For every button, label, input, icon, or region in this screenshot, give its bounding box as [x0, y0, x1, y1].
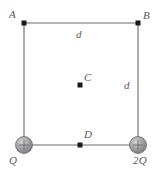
- charge-sphere-q: [16, 137, 33, 154]
- vertex-label-a: A: [9, 9, 16, 20]
- point-label-d: D: [84, 129, 92, 140]
- charge-label-q: Q: [9, 155, 17, 166]
- vertex-label-b: B: [143, 10, 150, 21]
- charge-sphere-2q: [130, 137, 147, 154]
- side-length-label-right: d: [124, 80, 130, 91]
- diagram-canvas: [0, 0, 161, 176]
- side-length-label-top: d: [76, 29, 82, 40]
- vertex-dot-b: [136, 21, 141, 26]
- charge-label-2q: 2Q: [133, 155, 147, 166]
- point-dot-c: [78, 83, 83, 88]
- point-label-c: C: [84, 72, 92, 83]
- physics-diagram-figure: A B Q 2Q C D d d: [0, 0, 161, 176]
- point-dot-d: [78, 143, 83, 148]
- vertex-dot-a: [22, 21, 27, 26]
